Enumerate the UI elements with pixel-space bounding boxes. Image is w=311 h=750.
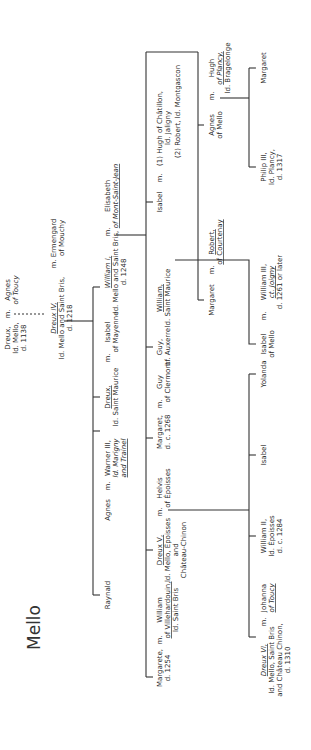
marriage-label: m. xyxy=(104,227,112,236)
title: ld. Marigny xyxy=(112,438,120,478)
name: Isabel xyxy=(260,334,268,355)
dates: d. 1317 xyxy=(276,154,284,181)
name: Elisabeth xyxy=(104,180,112,212)
person-william-saint-maurice: William, ld. Saint Maurice xyxy=(156,269,172,328)
person-margaret-plancy: Margaret xyxy=(260,52,268,84)
marriage-label: m. xyxy=(156,173,164,182)
person-dreux-v: Dreux V, ld. Mello, Époisses and Château… xyxy=(156,518,188,583)
dates: d. 1310 xyxy=(284,647,292,674)
name: Dreux V, xyxy=(156,535,164,565)
origin: of Mouchy xyxy=(58,220,66,256)
person-isabel-mayenne: Isabel of Mayenne xyxy=(104,312,120,353)
name: Margaret, xyxy=(156,415,164,449)
person-dreux-iv: Dreux IV, ld. Mello and Saint Bris, d. 1… xyxy=(50,277,74,360)
origin: of Clermont xyxy=(164,361,172,402)
origin: of Mayenne xyxy=(112,312,120,353)
marriage-label: m. xyxy=(156,635,164,644)
title: bf. Auxerre xyxy=(164,328,172,366)
spouse-1: (1) Hugh of Châtillon, xyxy=(156,91,164,166)
name: William xyxy=(156,597,164,623)
origin: of Toucy xyxy=(268,583,276,613)
person-isabel-chatillon-spouses: (1) Hugh of Châtillon, ld. Jaligny (2) R… xyxy=(156,65,182,166)
name: Agnes xyxy=(208,114,216,136)
name: Johanna xyxy=(260,584,268,613)
person-margaret-1268: Margaret, d. c. 1268 xyxy=(156,414,172,449)
title-cont: and Château Chinon, xyxy=(276,623,284,697)
name: Hugh xyxy=(208,59,216,78)
dates: d. c. 1284 xyxy=(276,518,284,554)
person-william-villehardouin: William of Villehardouin, ld. Saint Bris xyxy=(156,582,180,639)
name: Dreux, xyxy=(104,385,112,408)
person-warner-iii: Warner III, ld. Marigny and Trainel xyxy=(104,438,128,478)
person-william-ii: William II, ld. Époisses d. c. 1284 xyxy=(260,515,284,557)
origin: of Époisses xyxy=(163,468,172,508)
person-ermengard: Ermengard of Mouchy xyxy=(50,219,66,258)
origin: of Villehardouin, xyxy=(164,582,172,639)
marriage-label: m. xyxy=(260,311,268,320)
person-isabel: Isabel xyxy=(260,445,268,466)
name: Ermengard xyxy=(50,219,58,258)
person-dreux-saint-maurice: Dreux, ld. Saint Maurice xyxy=(104,368,120,427)
spouse-2: (2) Robert, ld. Montgascon xyxy=(174,65,182,158)
name: William, xyxy=(156,284,164,312)
origin: of Mello xyxy=(216,111,224,139)
name: Helvis xyxy=(156,477,164,499)
dates: d. 1261 or later xyxy=(276,255,284,310)
title: ld. Époisses xyxy=(267,515,276,557)
name: Agnes xyxy=(4,279,12,301)
marriage-label: m. xyxy=(156,507,164,516)
person-isabel-mello: Isabel of Mello xyxy=(260,330,276,358)
title-cont: Château-Chinon xyxy=(180,522,188,578)
person-isabel-chatillon: Isabel xyxy=(156,192,164,213)
origin: of Mont-Saint-Jean xyxy=(112,164,120,228)
person-johanna-toucy: Johanna of Toucy xyxy=(260,583,276,614)
person-helvis: Helvis of Époisses xyxy=(156,468,172,508)
marriage-label: m. xyxy=(104,481,112,490)
person-yolanda: Yolanda xyxy=(260,360,268,388)
dates: d. 1138 xyxy=(20,325,28,352)
origin: of Toucy xyxy=(12,275,20,305)
name: William II, xyxy=(260,519,268,553)
tree-rotated-group: Mello Dreux, ld. Mello, d. 1138 m. Agnes… xyxy=(4,43,292,697)
name: Dreux, xyxy=(4,326,12,349)
name: Philip III, xyxy=(260,152,268,182)
person-margarete: Margarete, d. 1254 xyxy=(156,649,172,687)
title: ct. Joigny xyxy=(268,265,276,298)
person-raynald: Raynald xyxy=(104,581,112,609)
person-margaret: Margaret xyxy=(208,284,216,316)
marriage-label: m. xyxy=(50,259,58,268)
name: Dreux VI, xyxy=(260,644,268,676)
name: Guy xyxy=(156,375,164,389)
title: ld. Mello and Saint Bris, xyxy=(58,277,66,360)
person-guy-auxerre: Guy, bf. Auxerre xyxy=(156,328,172,366)
name: William III, xyxy=(260,264,268,300)
name: Isabel xyxy=(104,322,112,343)
person-robert-courtenay: Robert, of Courtenay xyxy=(208,219,224,264)
title: ld. Mello and Saint Bris, xyxy=(112,231,120,314)
person-hugh-plancy: Hugh of Plancy, ld. Bragelonge xyxy=(208,43,232,94)
person-agnes-sibling: Agnes xyxy=(104,499,112,521)
person-william-i: William I, ld. Mello and Saint Bris, d. … xyxy=(104,231,128,314)
name: Dreux IV, xyxy=(50,302,58,334)
origin: of Courtenay xyxy=(216,219,224,264)
title-cont: and xyxy=(172,543,180,556)
dates: d. 1254 xyxy=(164,654,172,681)
dates: d. c. 1268 xyxy=(164,414,172,449)
person-philip-iii: Philip III, ld. Plancy, d. 1317 xyxy=(260,149,284,185)
origin: of Mello xyxy=(268,330,276,358)
diagram-title: Mello xyxy=(24,605,44,650)
title: ld. Bragelonge xyxy=(224,43,232,94)
person-elisabeth: Elisabeth of Mont-Saint-Jean xyxy=(104,164,120,228)
origin: of Plancy, xyxy=(216,51,224,85)
name: Guy, xyxy=(156,339,164,355)
person-dreux-vi: Dreux VI, ld. Mello, Saint Bris and Chât… xyxy=(260,623,292,697)
marriage-label: m. xyxy=(156,399,164,408)
name: William I, xyxy=(104,256,112,288)
title-cont: and Trainel xyxy=(120,438,128,477)
marriage-label: m. xyxy=(104,353,112,362)
title: ld. Saint Maurice xyxy=(112,368,120,427)
name: Robert, xyxy=(208,229,216,254)
person-agnes-toucy: Agnes of Toucy xyxy=(4,275,20,305)
title: ld. Saint Bris xyxy=(172,588,180,633)
title: ld. Mello, Époisses xyxy=(163,518,172,583)
